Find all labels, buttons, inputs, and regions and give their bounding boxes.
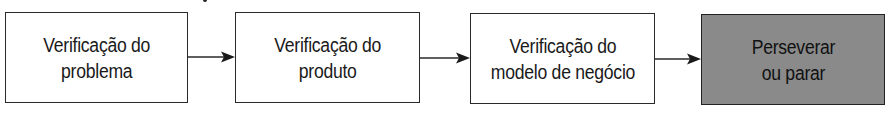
arrow-right-icon bbox=[654, 53, 701, 65]
step-label: Verificação do problema bbox=[43, 32, 150, 84]
arrow-right-icon bbox=[420, 52, 470, 64]
step-problem-verification: Verificação do problema bbox=[5, 12, 188, 103]
step-label: Perseverar ou parar bbox=[751, 34, 834, 86]
step-persevere-or-stop: Perseverar ou parar bbox=[701, 14, 885, 105]
cropped-title-fragment bbox=[203, 0, 207, 2]
step-label: Verificação do produto bbox=[274, 32, 381, 84]
step-business-model-verification: Verificação do modelo de negócio bbox=[470, 13, 655, 104]
step-product-verification: Verificação do produto bbox=[235, 12, 420, 103]
step-label: Verificação do modelo de negócio bbox=[490, 33, 634, 85]
arrow-right-icon bbox=[187, 51, 235, 63]
